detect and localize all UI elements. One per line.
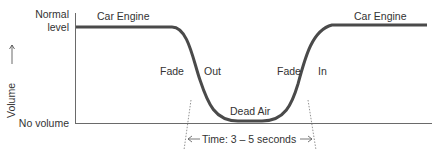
y-axis-label: Volume (5, 83, 17, 118)
y-axis-arrow-icon (10, 45, 15, 64)
y-bottom-label: No volume (19, 117, 69, 129)
fade-out-label-left: Fade (160, 65, 184, 77)
right-segment-label: Car Engine (354, 10, 407, 22)
volume-fade-diagram: Normal level No volume Volume Car Engine… (0, 0, 436, 157)
y-top-label-line2: level (47, 21, 69, 33)
y-top-label-line1: Normal (35, 8, 69, 20)
left-segment-label: Car Engine (97, 10, 150, 22)
time-bound-right (308, 100, 316, 150)
fade-in-label-left: Fade (277, 65, 301, 77)
dead-air-label: Dead Air (230, 105, 271, 117)
fade-out-label-right: Out (204, 65, 221, 77)
time-label: Time: 3 – 5 seconds (202, 133, 296, 145)
fade-in-label-right: In (318, 65, 327, 77)
time-bound-left (184, 100, 191, 150)
